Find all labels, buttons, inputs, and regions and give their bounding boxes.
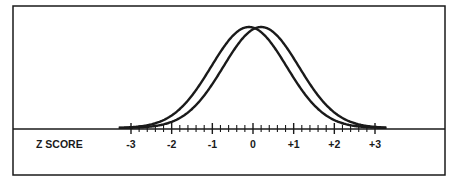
axis-label-z-score: Z SCORE [36, 138, 83, 150]
curve-a [119, 27, 387, 128]
tick-label: +2 [328, 138, 340, 150]
tick-labels: -3-2-10+1+2+3 [126, 138, 381, 150]
tick-label: 0 [250, 138, 256, 150]
tick-label: -3 [126, 138, 135, 150]
bell-curves [119, 27, 387, 128]
tick-label: -2 [167, 138, 176, 150]
curve-b [119, 27, 387, 128]
tick-label: -1 [208, 138, 217, 150]
tick-label: +1 [288, 138, 300, 150]
tick-label: +3 [369, 138, 381, 150]
z-score-diagram: Z SCORE -3-2-10+1+2+3 [0, 0, 457, 180]
